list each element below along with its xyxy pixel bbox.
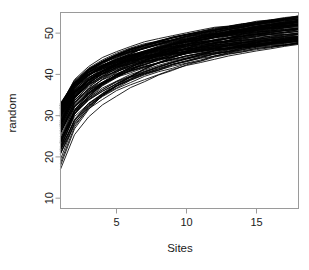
species-accumulation-chart: 1020304050 51015 Sites random <box>0 0 309 270</box>
y-axis-tick-labels: 1020304050 <box>44 27 56 204</box>
x-tick-label: 5 <box>113 216 119 228</box>
y-axis-title: random <box>6 94 18 133</box>
y-tick-label: 20 <box>44 151 56 163</box>
x-axis-tick-labels: 51015 <box>113 216 262 228</box>
x-axis-title: Sites <box>167 242 193 254</box>
y-tick-label: 40 <box>44 68 56 80</box>
x-tick-label: 15 <box>250 216 262 228</box>
chart-canvas: 1020304050 51015 Sites random <box>0 0 309 270</box>
x-axis-ticks <box>117 209 257 214</box>
y-tick-label: 30 <box>44 110 56 122</box>
x-tick-label: 10 <box>180 216 192 228</box>
accumulation-curves-group <box>61 16 299 169</box>
accumulation-curve <box>61 39 299 154</box>
y-tick-label: 50 <box>44 27 56 39</box>
y-tick-label: 10 <box>44 192 56 204</box>
y-axis-ticks <box>56 33 61 198</box>
